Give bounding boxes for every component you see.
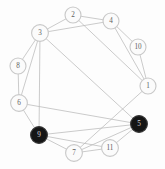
- node-circle-1[interactable]: [140, 78, 156, 94]
- graph-diagram: 1234567891011: [0, 0, 165, 169]
- node-circle-10[interactable]: [130, 39, 146, 55]
- graph-edge: [40, 33, 139, 124]
- graph-node-4[interactable]: 4: [103, 13, 119, 29]
- graph-node-3[interactable]: 3: [32, 25, 49, 42]
- graph-node-2[interactable]: 2: [65, 7, 81, 23]
- node-circle-6[interactable]: [11, 95, 28, 112]
- graph-node-5[interactable]: 5: [131, 116, 148, 133]
- graph-edge: [39, 33, 40, 135]
- node-circle-3[interactable]: [32, 25, 49, 42]
- graph-svg-canvas: 1234567891011: [0, 0, 165, 169]
- graph-edge: [39, 124, 139, 135]
- graph-edge: [19, 103, 139, 124]
- node-circle-11[interactable]: [102, 140, 119, 157]
- graph-node-1[interactable]: 1: [140, 78, 156, 94]
- graph-node-8[interactable]: 8: [10, 58, 26, 74]
- graph-node-10[interactable]: 10: [130, 39, 146, 55]
- node-circle-9[interactable]: [31, 127, 48, 144]
- node-circle-5[interactable]: [131, 116, 148, 133]
- node-circle-7[interactable]: [66, 145, 83, 162]
- graph-node-6[interactable]: 6: [11, 95, 28, 112]
- nodes-layer: 1234567891011: [10, 7, 156, 161]
- node-circle-2[interactable]: [65, 7, 81, 23]
- graph-node-11[interactable]: 11: [102, 140, 119, 157]
- graph-node-7[interactable]: 7: [66, 145, 83, 162]
- node-circle-4[interactable]: [103, 13, 119, 29]
- graph-node-9[interactable]: 9: [31, 127, 48, 144]
- node-circle-8[interactable]: [10, 58, 26, 74]
